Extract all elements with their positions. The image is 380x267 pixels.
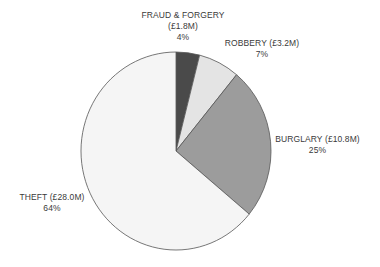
label-fraud-forgery: FRAUD & FORGERY (£1.8M) 4% [138,10,228,43]
pie-slices [81,52,271,250]
label-robbery-percent: 7% [222,49,302,60]
pie-chart: FRAUD & FORGERY (£1.8M) 4% ROBBERY (£3.2… [0,0,380,267]
label-fraud-value: (£1.8M) [138,21,228,32]
label-fraud-name: FRAUD & FORGERY [138,10,228,21]
label-burglary-name: BURGLARY (£10.8M) [270,134,365,145]
label-burglary: BURGLARY (£10.8M) 25% [270,134,365,156]
label-burglary-percent: 25% [270,145,365,156]
label-fraud-percent: 4% [138,32,228,43]
label-robbery-name: ROBBERY (£3.2M) [222,38,302,49]
label-robbery: ROBBERY (£3.2M) 7% [222,38,302,60]
label-theft-name: THEFT (£28.0M) [12,192,92,203]
label-theft-percent: 64% [12,203,92,214]
label-theft: THEFT (£28.0M) 64% [12,192,92,214]
